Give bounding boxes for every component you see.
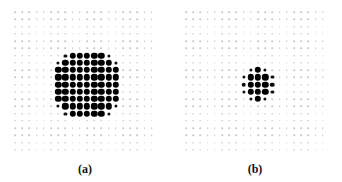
grid-dot [257, 26, 259, 28]
grid-dot [264, 26, 266, 28]
grid-dot [250, 62, 252, 64]
grid-dot [315, 120, 317, 122]
grid-dot [322, 113, 324, 115]
dot-grid-b [0, 0, 342, 160]
grid-dot [264, 33, 266, 35]
grid-dot [221, 91, 223, 93]
grid-dot [322, 11, 324, 13]
grid-dot [308, 47, 310, 49]
grid-dot [279, 113, 281, 115]
grid-dot [228, 26, 230, 28]
grid-dot [293, 76, 295, 78]
grid-dot [293, 134, 295, 136]
grid-dot [308, 149, 310, 151]
grid-dot [243, 18, 245, 20]
grid-dot [236, 18, 238, 20]
grid-dot [300, 33, 302, 35]
grid-dot [192, 142, 194, 144]
grid-dot [257, 127, 259, 129]
grid-dot [272, 134, 274, 136]
grid-dot [272, 105, 274, 107]
grid-dot [250, 134, 252, 136]
grid-dot [300, 40, 302, 42]
grid-dot [300, 142, 302, 144]
grid-dot [207, 91, 209, 93]
grid-dot [236, 142, 238, 144]
grid-dot [243, 40, 245, 42]
grid-dot [228, 69, 230, 71]
grid-dot [315, 11, 317, 13]
grid-dot [214, 11, 216, 13]
grid-dot [192, 47, 194, 49]
filled-dot [241, 82, 246, 87]
grid-dot [228, 91, 230, 93]
grid-dot [308, 105, 310, 107]
grid-dot [264, 62, 266, 64]
grid-dot [315, 47, 317, 49]
grid-dot [236, 113, 238, 115]
grid-dot [286, 91, 288, 93]
grid-dot [185, 62, 187, 64]
grid-dot [236, 98, 238, 100]
grid-dot [272, 33, 274, 35]
grid-dot [214, 120, 216, 122]
grid-dot [192, 127, 194, 129]
grid-dot [300, 26, 302, 28]
grid-dot [264, 127, 266, 129]
grid-dot [300, 113, 302, 115]
grid-dot [264, 120, 266, 122]
grid-dot [236, 134, 238, 136]
grid-dot [200, 55, 202, 57]
grid-dot [279, 47, 281, 49]
grid-dot [315, 91, 317, 93]
grid-dot [221, 69, 223, 71]
grid-dot [250, 18, 252, 20]
grid-dot [279, 55, 281, 57]
grid-dot [214, 33, 216, 35]
grid-dot [221, 26, 223, 28]
grid-dot [279, 18, 281, 20]
grid-dot [322, 69, 324, 71]
grid-dot [236, 91, 238, 93]
grid-dot [228, 55, 230, 57]
grid-dot [185, 69, 187, 71]
grid-dot [243, 134, 245, 136]
grid-dot [293, 33, 295, 35]
grid-dot [300, 84, 302, 86]
grid-dot [250, 11, 252, 13]
grid-dot [293, 26, 295, 28]
grid-dot [257, 47, 259, 49]
grid-dot [214, 113, 216, 115]
grid-dot [221, 149, 223, 151]
grid-dot [279, 149, 281, 151]
grid-dot [243, 113, 245, 115]
grid-dot [286, 62, 288, 64]
grid-dot [300, 91, 302, 93]
grid-dot [272, 18, 274, 20]
grid-dot [257, 18, 259, 20]
grid-dot [322, 26, 324, 28]
grid-dot [264, 134, 266, 136]
grid-dot [308, 69, 310, 71]
grid-dot [293, 84, 295, 86]
grid-dot [207, 134, 209, 136]
grid-dot [322, 33, 324, 35]
grid-dot [207, 76, 209, 78]
grid-dot [236, 69, 238, 71]
grid-dot [286, 55, 288, 57]
grid-dot [200, 134, 202, 136]
grid-dot [286, 18, 288, 20]
grid-dot [192, 149, 194, 151]
grid-dot [228, 33, 230, 35]
grid-dot [243, 26, 245, 28]
grid-dot [200, 11, 202, 13]
grid-dot [250, 105, 252, 107]
grid-dot [185, 26, 187, 28]
grid-dot [228, 84, 230, 86]
grid-dot [300, 55, 302, 57]
grid-dot [207, 127, 209, 129]
grid-dot [300, 105, 302, 107]
grid-dot [236, 26, 238, 28]
grid-dot [308, 18, 310, 20]
grid-dot [228, 105, 230, 107]
